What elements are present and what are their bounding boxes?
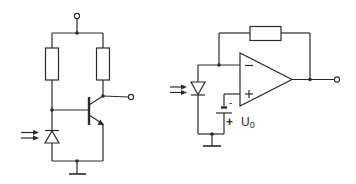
battery-minus-label: - [229,97,232,108]
collector-lead [89,96,103,105]
supply-junction [75,31,79,35]
right-circuit: - + U0 [170,27,340,147]
supply-terminal [74,13,79,18]
diode-triangle [45,131,59,143]
light-arrows-icon [21,130,39,141]
output-terminal [128,94,133,99]
schematic-canvas: - + U0 [0,0,356,184]
output-lead [103,96,129,97]
op-amp [240,53,292,106]
photodiode-left [21,130,59,161]
voltage-label: U0 [241,115,255,130]
feedback-resistor [250,27,281,41]
opamp-triangle [240,53,292,106]
npn-transistor [52,96,104,126]
photodiode-right [170,65,205,134]
output-terminal [334,77,339,82]
inverting-junction [217,63,221,67]
left-circuit [21,13,134,174]
light-arrows-icon [170,85,187,96]
diode-triangle [191,82,205,95]
collector-resistor [97,48,110,80]
battery-plus-label: + [226,115,233,129]
base-resistor [46,48,59,80]
output-junction [308,78,312,82]
